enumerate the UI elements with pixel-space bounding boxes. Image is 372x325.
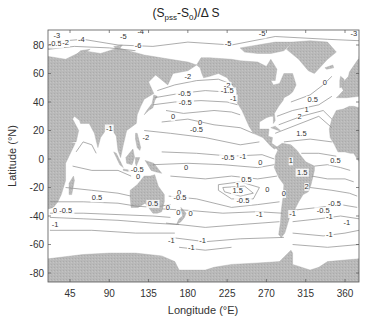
contour-label: -0.5 — [174, 193, 187, 202]
x-tick-label: 180 — [180, 288, 197, 299]
contour-label: 1.5 — [296, 129, 306, 138]
contour-label: -5 — [259, 29, 266, 38]
contour-label: -4 — [78, 35, 85, 44]
x-tick-label: 315 — [297, 288, 314, 299]
y-tick-label: 20 — [33, 125, 45, 136]
contour-label: -0.5 — [49, 39, 62, 48]
contour-label: -1 — [256, 210, 263, 219]
contour-label: -1 — [326, 212, 333, 221]
contour-label: -3 — [350, 29, 357, 38]
contour-label: 2 — [298, 112, 302, 121]
contour-label: 0 — [136, 172, 140, 181]
x-tick-label: 270 — [258, 288, 275, 299]
contour-label: 0 — [323, 78, 327, 87]
contour-label: -0.5 — [190, 125, 203, 134]
x-tick-label: 135 — [140, 288, 157, 299]
contour-label: -1 — [188, 243, 195, 252]
contour-label: -0.5 — [328, 199, 341, 208]
map-plot: -3-4-4-0.5-2-5-6-5-5-3-2-2-1.5-1-0.50.50… — [0, 0, 372, 325]
x-axis-label: Longitude (°E) — [168, 304, 238, 316]
contour-label: 1 — [289, 156, 293, 165]
y-tick-label: -20 — [30, 182, 45, 193]
contour-label: -2 — [143, 133, 150, 142]
x-tick-label: 90 — [104, 288, 116, 299]
contour-label: 0 — [176, 208, 180, 217]
contour-label: 0 — [53, 206, 57, 215]
contour-label: -1 — [326, 230, 333, 239]
y-tick-label: -80 — [30, 268, 45, 279]
y-tick-label: -60 — [30, 239, 45, 250]
contour-label: -0.5 — [222, 153, 235, 162]
contour-label: -1 — [52, 220, 59, 229]
y-tick-label: 0 — [38, 154, 44, 165]
contour-label: 0 — [166, 203, 170, 212]
contour-label: 0.5 — [241, 175, 251, 184]
y-tick-label: 80 — [33, 40, 45, 51]
contour-label: 0.5 — [330, 156, 340, 165]
contour-label: -1 — [106, 124, 113, 133]
x-tick-label: 225 — [219, 288, 236, 299]
contour-label: -2 — [62, 38, 69, 47]
contour-label: 1 — [305, 105, 309, 114]
contour-label: -6 — [135, 41, 142, 50]
contour-label: -0.5 — [59, 206, 72, 215]
contour-label: -1 — [199, 236, 206, 245]
contour-label: -0.5 — [236, 196, 249, 205]
x-tick-label: 45 — [64, 288, 76, 299]
x-tick-label: 360 — [337, 288, 354, 299]
contour-label: 0 — [171, 112, 175, 121]
contour-label: -4 — [137, 27, 144, 36]
contour-label: -5 — [225, 39, 232, 48]
contour-label: -1 — [240, 152, 247, 161]
contour-label: -0.5 — [179, 98, 192, 107]
contour-label: 0 — [282, 189, 286, 198]
contour-label: -5 — [120, 32, 127, 41]
y-tick-label: 40 — [33, 97, 45, 108]
contour-label: -1 — [343, 218, 350, 227]
y-tick-label: -40 — [30, 211, 45, 222]
contour-label: -1 — [289, 209, 296, 218]
contour-label: 0 — [184, 163, 188, 172]
contour-label: -1 — [168, 236, 175, 245]
contour-label: 0 — [258, 158, 262, 167]
contour-label: 2 — [305, 182, 309, 191]
contour-label: 0.5 — [307, 95, 317, 104]
contour-label: 1.5 — [232, 186, 242, 195]
contour-label: 0 — [265, 185, 269, 194]
contour-label: 0 — [188, 209, 192, 218]
y-tick-label: 60 — [33, 68, 45, 79]
contour-label: 1.5 — [297, 168, 307, 177]
contour-label: -2 — [185, 72, 192, 81]
contour-label: -1 — [230, 94, 237, 103]
y-axis-label: Latitude (°N) — [6, 125, 18, 187]
map-area: -3-4-4-0.5-2-5-6-5-5-3-2-2-1.5-1-0.50.50… — [39, 27, 362, 291]
contour-label: 0.5 — [148, 199, 158, 208]
contour-label: 0.5 — [92, 193, 102, 202]
